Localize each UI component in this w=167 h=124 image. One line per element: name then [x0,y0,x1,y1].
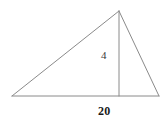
figure-background [0,0,167,124]
base-label: 20 [98,105,111,117]
triangle-diagram-svg [0,0,167,124]
height-label: 4 [101,50,107,61]
geometry-figure: 4 20 [0,0,167,124]
